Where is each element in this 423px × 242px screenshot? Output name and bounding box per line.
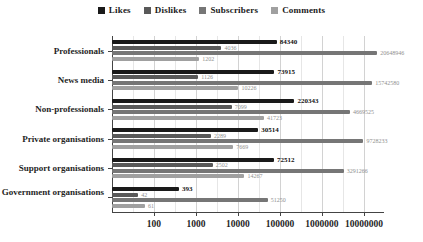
x-tick-mark [238, 212, 239, 216]
bar-value-label: 220343 [297, 98, 318, 105]
bar-comments-5 [112, 204, 145, 208]
gridline [259, 36, 260, 212]
x-axis-tick-label: 10000000 [345, 219, 383, 229]
gridline [322, 36, 323, 212]
y-tick-mark [108, 168, 112, 169]
gridline [133, 36, 134, 212]
x-axis-tick-label: 1000000 [305, 219, 338, 229]
gridline [154, 36, 155, 212]
x-tick-mark [322, 212, 323, 216]
legend-item-subscribers: Subscribers [199, 5, 258, 15]
bar-likes-4 [112, 158, 274, 162]
legend-swatch-icon [144, 7, 151, 14]
legend-swatch-icon [271, 7, 278, 14]
category-label: Professionals [0, 46, 104, 56]
gridline [196, 36, 197, 212]
bar-value-label: 1202 [202, 56, 214, 62]
legend-item-likes: Likes [98, 5, 131, 15]
bar-subscribers-2 [112, 110, 350, 114]
category-label: News media [0, 75, 104, 85]
gridline [238, 36, 239, 212]
x-axis [112, 212, 384, 213]
x-tick-mark [364, 212, 365, 216]
bar-value-label: 10226 [241, 85, 256, 91]
bar-dislikes-1 [112, 75, 198, 79]
bar-subscribers-5 [112, 198, 268, 202]
bar-subscribers-4 [112, 169, 344, 173]
x-tick-mark [154, 212, 155, 216]
bar-value-label: 393 [182, 186, 193, 193]
bar-dislikes-4 [112, 163, 213, 167]
bar-value-label: 30514 [261, 127, 279, 134]
bar-value-label: 2289 [214, 133, 226, 139]
gridline [343, 36, 344, 212]
bar-likes-3 [112, 128, 258, 132]
category-label: Private organisations [0, 134, 104, 144]
category-label: Support organisations [0, 163, 104, 173]
gridline [175, 36, 176, 212]
bar-value-label: 14267 [247, 173, 262, 179]
category-label: Non-professionals [0, 104, 104, 114]
bar-comments-0 [112, 57, 199, 61]
bar-subscribers-3 [112, 139, 363, 143]
legend-label: Comments [282, 5, 325, 15]
legend-label: Subscribers [210, 5, 258, 15]
legend-label: Dislikes [155, 5, 187, 15]
bar-likes-5 [112, 187, 179, 191]
bar-value-label: 61 [148, 203, 154, 209]
bar-subscribers-1 [112, 81, 372, 85]
legend: LikesDislikesSubscribersComments [0, 5, 423, 15]
gridline [280, 36, 281, 212]
bar-value-label: 7099 [235, 104, 247, 110]
x-axis-tick-label: 100000 [266, 219, 295, 229]
y-tick-mark [108, 139, 112, 140]
bar-value-label: 20648946 [380, 50, 404, 56]
bar-value-label: 7669 [236, 144, 248, 150]
bar-value-label: 73915 [277, 69, 295, 76]
bar-comments-2 [112, 116, 264, 120]
y-axis [112, 36, 113, 212]
bar-value-label: 51250 [271, 197, 286, 203]
x-axis-tick-label: 10000 [226, 219, 250, 229]
gridline [301, 36, 302, 212]
bar-value-label: 2502 [216, 162, 228, 168]
y-tick-mark [108, 51, 112, 52]
legend-label: Likes [109, 5, 131, 15]
legend-swatch-icon [98, 7, 105, 14]
bar-value-label: 72512 [277, 157, 295, 164]
bar-value-label: 3291266 [347, 168, 368, 174]
y-tick-mark [108, 80, 112, 81]
x-tick-mark [280, 212, 281, 216]
bar-value-label: 4036 [224, 45, 236, 51]
bar-value-label: 9728233 [366, 138, 387, 144]
bar-likes-0 [112, 40, 277, 44]
gridline [364, 36, 365, 212]
bar-comments-1 [112, 86, 238, 90]
legend-item-comments: Comments [271, 5, 325, 15]
bar-value-label: 41723 [267, 115, 282, 121]
y-tick-mark [108, 109, 112, 110]
bar-likes-1 [112, 70, 274, 74]
bar-dislikes-0 [112, 46, 221, 50]
bar-dislikes-2 [112, 105, 232, 109]
bar-value-label: 4669525 [353, 109, 374, 115]
x-tick-mark [196, 212, 197, 216]
category-label: Government organisations [0, 187, 104, 197]
legend-item-dislikes: Dislikes [144, 5, 187, 15]
plot-area: 8434040362064894612027391511261574258010… [112, 36, 384, 212]
gridline [217, 36, 218, 212]
y-tick-mark [108, 197, 112, 198]
x-axis-tick-label: 1000 [186, 219, 205, 229]
bar-value-label: 15742580 [375, 80, 399, 86]
bar-comments-4 [112, 174, 244, 178]
legend-swatch-icon [199, 7, 206, 14]
x-axis-tick-label: 100 [147, 219, 161, 229]
bar-value-label: 1126 [201, 74, 213, 80]
bar-chart: LikesDislikesSubscribersComments 8434040… [0, 0, 423, 242]
bar-dislikes-3 [112, 134, 211, 138]
bar-likes-2 [112, 99, 294, 103]
bar-value-label: 42 [141, 192, 147, 198]
bar-value-label: 84340 [280, 39, 298, 46]
bar-dislikes-5 [112, 193, 138, 197]
bar-subscribers-0 [112, 51, 377, 55]
